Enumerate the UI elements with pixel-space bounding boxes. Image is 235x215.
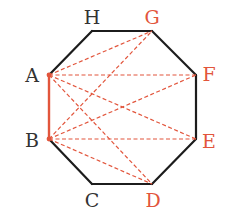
vertex-label-f: F [202, 63, 215, 85]
vertex-dot-a [47, 73, 52, 78]
vertex-label-a: A [24, 64, 39, 86]
dashed-segment-bd [49, 139, 152, 184]
vertex-label-g: G [144, 6, 159, 28]
vertex-label-b: B [25, 129, 39, 151]
vertex-label-c: C [85, 189, 100, 211]
dashed-segment-bf [49, 75, 196, 139]
highlighted-edge-ab [47, 73, 52, 142]
dashed-segment-ad [49, 75, 152, 184]
vertex-labels: ABCDEFGH [24, 6, 216, 211]
vertex-dot-b [47, 137, 52, 142]
vertex-label-h: H [84, 6, 101, 28]
edge-bc [49, 139, 92, 184]
edge-de [152, 139, 196, 184]
vertex-label-d: D [145, 189, 160, 211]
octagon-diagram: ABCDEFGH [0, 0, 235, 215]
edge-ha [49, 31, 92, 75]
edge-fg [152, 31, 196, 75]
dashed-segment-bg [49, 31, 152, 139]
vertex-label-e: E [202, 130, 216, 152]
dashed-segment-ag [49, 31, 152, 75]
